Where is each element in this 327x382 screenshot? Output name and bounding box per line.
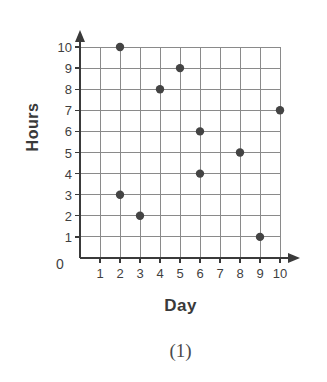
scatter-plot-figure: Hours Day (1) 0 1234567891012345678910: [0, 0, 327, 382]
x-tick-label-1: 1: [96, 266, 103, 281]
x-tick-label-8: 8: [236, 266, 243, 281]
axis-lines: [75, 30, 300, 263]
data-point: [276, 106, 284, 114]
x-axis-label: Day: [78, 296, 283, 316]
x-tick-label-5: 5: [176, 266, 183, 281]
data-point: [196, 169, 204, 177]
data-point: [116, 43, 124, 51]
x-tick-label-10: 10: [273, 266, 287, 281]
data-point: [136, 212, 144, 220]
x-tick-label-9: 9: [256, 266, 263, 281]
figure-caption: (1): [78, 340, 283, 362]
y-tick-label-9: 9: [24, 61, 72, 76]
y-tick-label-4: 4: [24, 166, 72, 181]
x-tick-label-7: 7: [216, 266, 223, 281]
x-tick-label-6: 6: [196, 266, 203, 281]
y-tick-label-2: 2: [24, 208, 72, 223]
data-point: [256, 233, 264, 241]
y-tick-label-5: 5: [24, 145, 72, 160]
grid-lines: [80, 47, 280, 258]
data-point: [196, 127, 204, 135]
y-tick-label-7: 7: [24, 103, 72, 118]
origin-tick-label: 0: [56, 256, 64, 272]
data-point: [156, 85, 164, 93]
axis-ticks: [75, 47, 280, 263]
x-tick-label-3: 3: [136, 266, 143, 281]
data-point: [176, 64, 184, 72]
data-point: [236, 148, 244, 156]
y-tick-label-10: 10: [24, 40, 72, 55]
data-point: [116, 191, 124, 199]
x-tick-label-4: 4: [156, 266, 163, 281]
y-tick-label-8: 8: [24, 82, 72, 97]
y-tick-label-6: 6: [24, 124, 72, 139]
y-tick-label-3: 3: [24, 187, 72, 202]
x-tick-label-2: 2: [116, 266, 123, 281]
y-tick-label-1: 1: [24, 229, 72, 244]
